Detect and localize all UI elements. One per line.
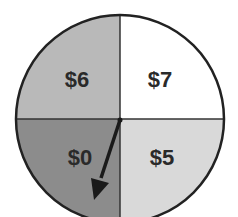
label-top-left: $6 [65, 67, 89, 92]
spinner: $6 $7 $0 $5 [0, 0, 238, 217]
label-bottom-right: $5 [150, 145, 174, 170]
label-bottom-left: $0 [68, 145, 92, 170]
label-top-right: $7 [148, 67, 172, 92]
section-bottom-right [120, 119, 238, 217]
section-top-right [120, 0, 238, 119]
